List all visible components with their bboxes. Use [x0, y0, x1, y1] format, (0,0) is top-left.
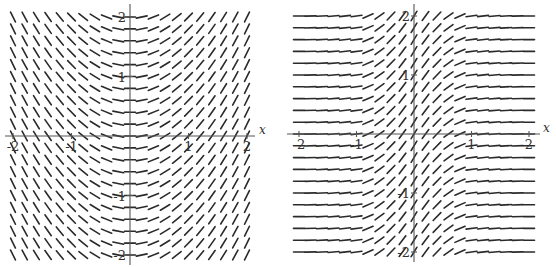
slope-segment: [478, 27, 489, 28]
slope-segment: [56, 239, 63, 248]
slope-segment: [444, 36, 453, 42]
slope-segment: [387, 248, 395, 256]
slope-segment: [501, 98, 512, 99]
slope-segment: [501, 110, 512, 111]
slope-segment: [351, 251, 362, 252]
slope-segment: [317, 240, 328, 241]
slope-segment: [173, 240, 182, 247]
slope-segment: [233, 84, 238, 94]
slope-segment: [113, 64, 124, 66]
slope-segment: [489, 86, 500, 87]
slope-segment: [197, 227, 204, 236]
slope-segment: [478, 240, 489, 241]
slope-segment: [328, 86, 339, 87]
slope-segment: [466, 39, 477, 40]
slope-segment: [90, 62, 99, 68]
slope-segment: [387, 106, 395, 114]
slope-segment: [375, 202, 384, 208]
slope-segment: [399, 141, 406, 150]
slope-segment: [375, 25, 384, 31]
slope-segment: [317, 51, 328, 52]
slope-segment: [501, 87, 512, 88]
slope-segment: [173, 156, 182, 163]
slope-segment: [45, 191, 51, 200]
slope-segment: [478, 39, 489, 40]
slope-segment: [90, 157, 99, 163]
slope-segment: [387, 142, 395, 150]
slope-segment: [11, 36, 16, 46]
slope-segment: [444, 237, 453, 243]
slope-segment: [68, 203, 76, 211]
slope-segment: [233, 36, 238, 46]
slope-segment: [375, 190, 384, 196]
slope-segment: [351, 98, 362, 99]
slope-segment: [136, 171, 147, 173]
slope-segment: [79, 61, 88, 68]
slope-segment: [160, 240, 169, 246]
slope-segment: [45, 72, 51, 81]
slope-segment: [197, 72, 204, 81]
slope-segment: [466, 192, 477, 193]
slope-segment: [11, 83, 16, 93]
slope-segment: [351, 15, 362, 16]
slope-segment: [197, 251, 204, 260]
y-tick-label: -2: [397, 245, 410, 260]
slope-segment: [56, 48, 63, 57]
slope-segment: [351, 74, 362, 75]
slope-segment: [79, 168, 88, 175]
slope-segment: [455, 250, 465, 254]
slope-segment: [56, 227, 63, 236]
slope-segment: [340, 145, 351, 146]
slope-segment: [148, 110, 158, 114]
slope-segment: [387, 177, 395, 185]
slope-segment: [399, 177, 406, 186]
slope-segment: [221, 227, 227, 236]
slope-segment: [489, 193, 500, 194]
slope-segment: [489, 63, 500, 64]
slope-segment: [478, 228, 489, 229]
slope-segment: [173, 192, 182, 199]
slope-segment: [209, 167, 215, 176]
slope-segment: [197, 96, 204, 105]
slope-segment: [351, 86, 362, 87]
slope-segment: [455, 167, 465, 171]
slope-segment: [317, 146, 328, 147]
slope-segment: [444, 25, 453, 31]
slope-segment: [387, 71, 395, 79]
slope-segment: [102, 158, 112, 162]
slope-segment: [478, 74, 489, 75]
slope-segment: [160, 181, 169, 187]
slope-segment: [11, 202, 16, 212]
slope-segment: [185, 180, 193, 188]
slope-segment: [399, 47, 406, 56]
slope-segment: [34, 24, 40, 33]
slope-segment: [317, 28, 328, 29]
slope-segment: [79, 14, 88, 21]
slope-segment: [173, 25, 182, 32]
slope-field-right: -2-112-2-112x: [280, 0, 556, 267]
slope-segment: [173, 216, 182, 223]
slope-segment: [11, 191, 16, 201]
x-tick-label: 1: [467, 137, 475, 152]
slope-segment: [363, 191, 373, 195]
slope-segment: [160, 109, 169, 115]
slope-segment: [221, 108, 227, 117]
slope-segment: [185, 192, 193, 200]
slope-segment: [444, 249, 453, 255]
slope-segment: [68, 61, 76, 69]
slope-segment: [340, 228, 351, 229]
slope-segment: [233, 238, 238, 248]
slope-segment: [56, 72, 63, 81]
slope-segment: [11, 60, 16, 70]
slope-segment: [68, 215, 76, 223]
slope-segment: [317, 181, 328, 182]
slope-segment: [245, 179, 250, 189]
slope-segment: [45, 108, 51, 117]
slope-segment: [173, 49, 182, 56]
slope-segment: [11, 72, 16, 82]
slope-segment: [444, 190, 453, 196]
slope-segment: [455, 26, 465, 30]
slope-segment: [363, 238, 373, 242]
slope-segment: [22, 84, 27, 94]
slope-segment: [197, 203, 204, 212]
